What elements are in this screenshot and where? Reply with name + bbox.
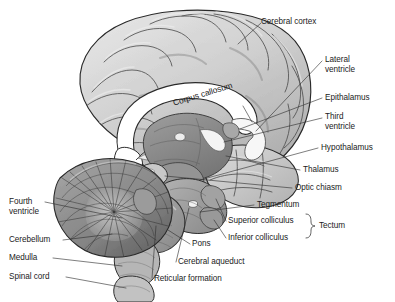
label-hypothalamus: Hypothalamus [321, 143, 373, 152]
label-fourth-ventricle-line1: Fourth [9, 197, 32, 206]
label-cerebral-cortex: Cerebral cortex [261, 17, 316, 26]
label-fourth-ventricle-line2: ventricle [9, 207, 39, 216]
label-cerebral-aqueduct: Cerebral aqueduct [178, 257, 245, 266]
label-tectum: Tectum [319, 221, 345, 230]
label-spinal-cord: Spinal cord [9, 272, 49, 281]
brain-diagram-figure: Cerebral cortex Lateral ventricle Epitha… [0, 0, 395, 302]
label-optic-chiasm: Optic chiasm [295, 183, 342, 192]
label-lateral-ventricle-line1: Lateral [325, 55, 350, 64]
label-lateral-ventricle-line2: ventricle [325, 65, 355, 74]
label-cerebellum: Cerebellum [9, 235, 50, 244]
label-superior-colliculus: Superior colliculus [228, 216, 294, 225]
label-tegmentum: Tegmentum [257, 200, 299, 209]
label-third-ventricle-line2: ventricle [325, 122, 355, 131]
label-third-ventricle-line1: Third [325, 112, 343, 121]
label-epithalamus: Epithalamus [325, 93, 370, 102]
tectum-brace [306, 214, 315, 238]
label-pons: Pons [192, 239, 210, 248]
label-inferior-colliculus: Inferior colliculus [228, 233, 288, 242]
leader-medulla [53, 258, 122, 266]
massa-intermedia [175, 133, 185, 141]
label-thalamus: Thalamus [303, 165, 339, 174]
label-medulla: Medulla [9, 253, 37, 262]
label-reticular-formation: Reticular formation [154, 274, 222, 283]
